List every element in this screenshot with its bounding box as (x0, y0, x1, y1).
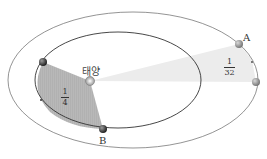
inner-fraction-label: 1 4 (61, 88, 69, 107)
point-b-label: B (99, 135, 106, 146)
fraction-denominator: 4 (62, 99, 67, 107)
point-a-label: A (243, 32, 250, 43)
inner-planet-icon (39, 58, 47, 66)
orbit-drawing (0, 0, 267, 159)
sun-label: 태양 (82, 63, 100, 78)
outer-planet-a-icon (235, 40, 243, 48)
outer-fraction-label: 1 32 (224, 58, 235, 77)
inner-planet-b-icon (99, 125, 107, 133)
kepler-orbit-diagram: 태양 A B 1 4 1 32 (0, 0, 267, 159)
fraction-denominator: 32 (224, 69, 234, 77)
fraction-numerator: 1 (62, 88, 67, 96)
outer-planet-icon (252, 78, 260, 86)
fraction-numerator: 1 (227, 58, 232, 66)
